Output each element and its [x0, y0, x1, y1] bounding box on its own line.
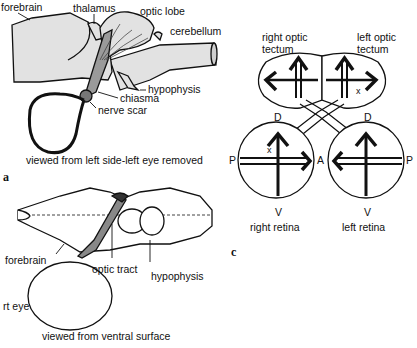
label-forebrain-b: forebrain — [5, 254, 46, 266]
label-chiasma: chiasma — [120, 92, 159, 104]
figure-canvas — [0, 0, 417, 348]
label-right-optic: right optic — [262, 31, 308, 43]
axis-ventral-right: V — [275, 206, 282, 218]
caption-panel-a: viewed from left side-left eye removed — [26, 154, 203, 166]
label-right-tectum: tectum — [262, 43, 294, 55]
hypophysis-lobe-2 — [140, 207, 164, 235]
label-thalamus: thalamus — [73, 2, 116, 14]
label-optic-lobe: optic lobe — [140, 5, 185, 17]
cerebellum-shape — [154, 32, 162, 40]
panel-b-drawing — [18, 188, 212, 330]
marker-x-retina: x — [267, 145, 272, 155]
right-retina-circle — [238, 122, 314, 198]
axis-dorsal-left: D — [364, 111, 372, 123]
axis-anterior: A — [317, 154, 324, 166]
axis-posterior-right: P — [229, 154, 236, 166]
label-cerebellum: cerebellum — [170, 25, 221, 37]
label-hypophysis-b: hypophysis — [151, 270, 204, 282]
caption-panel-b: viewed from ventral surface — [42, 330, 170, 342]
panel-c-drawing — [238, 53, 404, 198]
panel-letter-a: a — [3, 170, 9, 185]
marker-x-tectum: x — [356, 86, 361, 96]
label-left-retina: left retina — [342, 221, 385, 233]
label-nerve-scar: nerve scar — [98, 104, 147, 116]
label-left-tectum: tectum — [357, 43, 389, 55]
axis-ventral-left: V — [364, 206, 371, 218]
label-forebrain-a: forebrain — [1, 1, 42, 13]
eye-ring — [29, 94, 84, 153]
spinal-cord-end — [211, 43, 217, 65]
label-right-retina: right retina — [250, 221, 300, 233]
axis-posterior-left: P — [406, 154, 413, 166]
panel-letter-c: c — [231, 245, 236, 260]
label-rt-eye: rt eye — [3, 300, 29, 312]
label-left-optic: left optic — [357, 31, 396, 43]
axis-dorsal-right: D — [274, 111, 282, 123]
label-optic-tract: optic tract — [92, 263, 138, 275]
